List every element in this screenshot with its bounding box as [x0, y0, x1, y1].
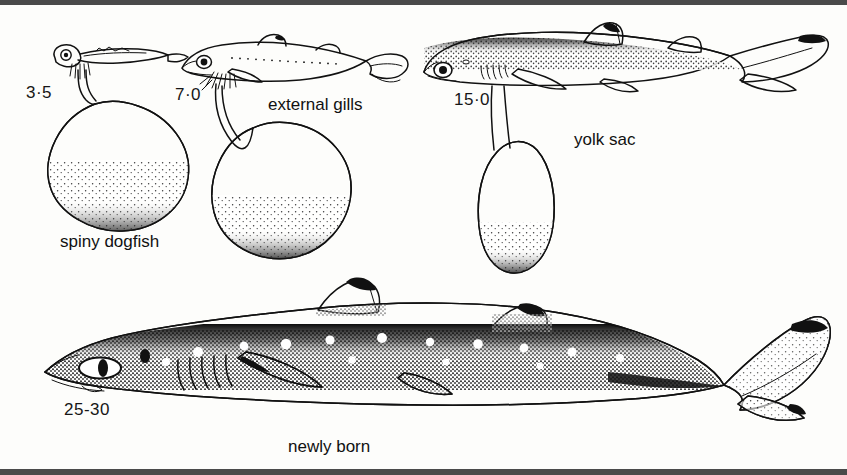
caption-newly-born: newly born [288, 437, 370, 457]
newborn-dogfish-drawing [40, 278, 830, 421]
caption-yolk-sac: yolk sac [574, 130, 635, 150]
caption-spiny-dogfish: spiny dogfish [60, 232, 159, 252]
top-border-band [0, 0, 847, 5]
embryo-3-5-drawing [40, 45, 200, 240]
stage-label-7-0: 7·0 [175, 85, 201, 105]
caption-external-gills: external gills [268, 95, 363, 115]
stage-label-15-0: 15·0 [454, 90, 490, 110]
figure-panel: 3·5 7·0 15·0 25-30 external gills yolk s… [0, 0, 847, 475]
embryo-7-0-drawing [182, 34, 408, 265]
stage-label-3-5: 3·5 [26, 83, 52, 103]
bottom-border-band [0, 469, 847, 475]
embryo-15-0-drawing [420, 23, 828, 278]
stage-label-25-30: 25-30 [64, 400, 110, 420]
